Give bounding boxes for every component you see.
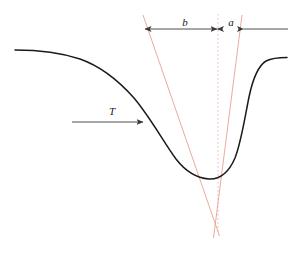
label-b: b — [182, 16, 188, 28]
main-dip-curve — [15, 50, 287, 179]
label-temperature: T — [109, 105, 116, 117]
figure-container: b a T — [0, 0, 292, 259]
label-a: a — [228, 16, 234, 28]
dip-curve-diagram: b a T — [0, 0, 292, 259]
